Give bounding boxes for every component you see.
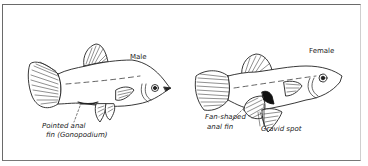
male-annotation-line-2: fin (Gonopodium) (46, 131, 107, 139)
male-fish (28, 44, 171, 122)
male-title: Male (130, 53, 147, 61)
female-title: Female (309, 47, 334, 55)
male-ventral-fins (95, 104, 115, 122)
male-annotation-line-1: Pointed anal (42, 122, 86, 130)
fish-illustration (0, 0, 368, 166)
male-caudal-fin (28, 62, 61, 108)
female-caudal-fin (195, 71, 229, 111)
gravid-spot-label: Gravid spot (261, 125, 301, 133)
anal-fin-annotation-line-2: anal fin (207, 123, 233, 131)
male-pointer-line (74, 106, 80, 122)
anal-fin-annotation-line-1: Fan-shaped (205, 113, 246, 121)
